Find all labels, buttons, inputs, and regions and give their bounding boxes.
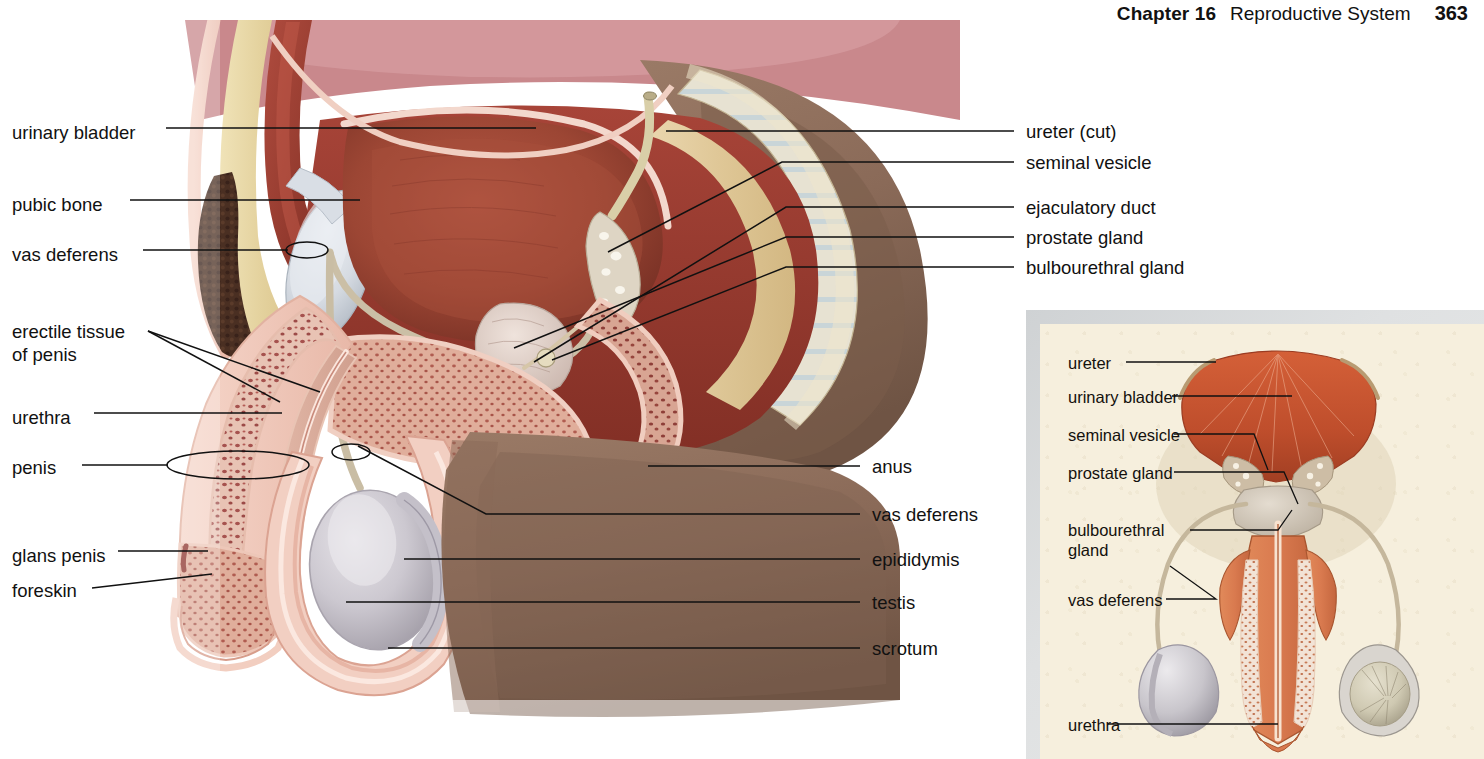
left-fade	[150, 20, 220, 759]
inset-label-ureter: ureter	[1068, 353, 1111, 373]
inset-testis-right-section	[1350, 662, 1410, 726]
ureter-cut-end	[644, 92, 657, 100]
figure-page: Chapter 16 Reproductive System 363	[0, 0, 1484, 759]
torso-cross-section	[174, 20, 960, 717]
inset-label-vas-deferens: vas deferens	[1068, 590, 1162, 610]
label-ureter-cut: ureter (cut)	[1026, 121, 1116, 142]
inset-label-bulbourethral-gland: bulbourethral gland	[1068, 520, 1164, 560]
label-foreskin: foreskin	[12, 580, 77, 601]
label-anus: anus	[872, 456, 912, 477]
label-urinary-bladder: urinary bladder	[12, 122, 135, 143]
inset-label-prostate-gland: prostate gland	[1068, 463, 1173, 483]
label-prostate-gland: prostate gland	[1026, 227, 1143, 248]
label-pubic-bone: pubic bone	[12, 194, 103, 215]
label-epididymis: epididymis	[872, 549, 959, 570]
thigh-shading	[476, 452, 886, 700]
inset-label-seminal-vesicle: seminal vesicle	[1068, 425, 1180, 445]
label-bulbourethral-gland: bulbourethral gland	[1026, 257, 1184, 278]
label-vas-deferens-right: vas deferens	[872, 504, 978, 525]
label-penis: penis	[12, 457, 56, 478]
inset-panel: ureter urinary bladder seminal vesicle p…	[1040, 324, 1484, 759]
label-urethra-left: urethra	[12, 407, 71, 428]
label-vas-deferens-left: vas deferens	[12, 244, 118, 265]
label-ejaculatory-duct: ejaculatory duct	[1026, 197, 1156, 218]
label-glans-penis: glans penis	[12, 545, 106, 566]
scrotum-group	[265, 436, 470, 695]
inset-label-urinary-bladder: urinary bladder	[1068, 387, 1178, 407]
label-testis: testis	[872, 592, 915, 613]
label-seminal-vesicle: seminal vesicle	[1026, 152, 1151, 173]
bottom-fade	[150, 700, 990, 759]
label-erectile-tissue-of-penis: erectile tissue of penis	[12, 320, 125, 366]
inset-label-urethra: urethra	[1068, 715, 1120, 735]
label-scrotum: scrotum	[872, 638, 938, 659]
